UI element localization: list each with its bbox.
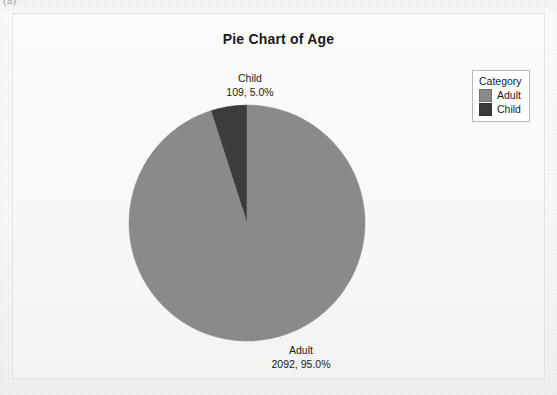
chart-panel: Pie Chart of Age Child 109, 5.0% Adult 2… [12, 13, 545, 379]
slice-label-child-name: Child [195, 71, 305, 85]
legend-swatch-child [479, 103, 492, 116]
legend-label-child: Child [497, 104, 521, 115]
legend-item-adult: Adult [479, 89, 523, 102]
slice-label-child: Child 109, 5.0% [195, 71, 305, 99]
legend-label-adult: Adult [497, 90, 521, 101]
pie-chart-area [13, 14, 546, 380]
figure-caption-fragment: (a) [3, 0, 16, 8]
legend-swatch-adult [479, 89, 492, 102]
pie-slice-adult [129, 105, 365, 341]
slice-label-adult-name: Adult [241, 343, 361, 357]
legend-rows: AdultChild [479, 89, 523, 116]
slice-label-adult-value: 2092, 95.0% [241, 357, 361, 371]
scanned-page: crete Variables, Sex Tally for Discrete … [0, 0, 557, 395]
legend-item-child: Child [479, 103, 523, 116]
pie-slices [129, 105, 365, 341]
slice-label-adult: Adult 2092, 95.0% [241, 343, 361, 371]
chart-legend: Category AdultChild [472, 70, 530, 122]
slice-label-child-value: 109, 5.0% [195, 85, 305, 99]
legend-title: Category [479, 75, 523, 87]
pie-chart-svg [13, 14, 546, 380]
